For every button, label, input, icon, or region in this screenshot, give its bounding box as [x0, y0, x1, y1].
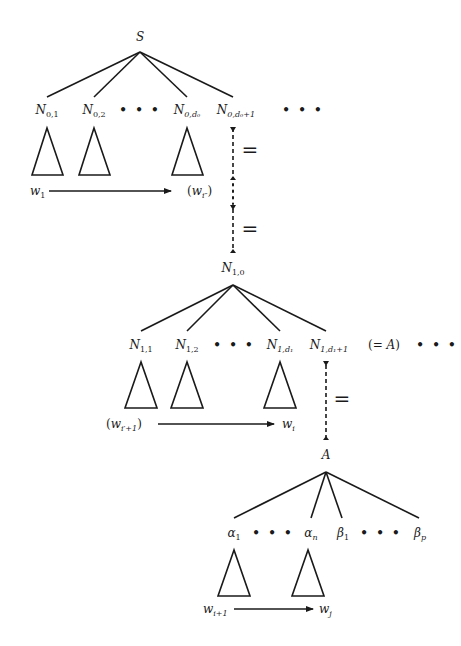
subtree-triangle: [79, 128, 110, 175]
node-S: S: [136, 30, 144, 44]
equals-sign: =: [242, 138, 259, 162]
ellipsis: • • •: [282, 103, 323, 117]
node-N1d1: N1,d₁: [266, 338, 293, 354]
node-betap: βp: [413, 526, 426, 542]
edge: [140, 52, 187, 97]
arrowhead-icon: [230, 127, 236, 132]
ellipsis: • • •: [416, 338, 457, 352]
level2-tree: A α1 • • • αn β1 • • • βp wi+1 wj: [203, 448, 426, 618]
subtree-triangle: [172, 128, 203, 175]
edge: [141, 285, 233, 331]
node-alpha1: α1: [227, 526, 240, 542]
tree-diagram: S N0,1 N0,2 • • • N0,d₀ N0,d₀+1 • • • w1…: [0, 0, 461, 646]
annotation-equals-A: (= A): [368, 338, 400, 352]
equals-sign: =: [334, 387, 351, 411]
equals-sign: =: [242, 217, 259, 241]
identity-connector-1: = =: [230, 127, 258, 253]
identity-connector-2: =: [323, 361, 350, 440]
node-alphan: αn: [304, 526, 317, 542]
edge: [47, 52, 140, 97]
ellipsis: • • •: [213, 338, 254, 352]
node-N11: N1,1: [128, 338, 152, 354]
subtree-triangle: [292, 550, 324, 596]
yield-start-wi1plus1: (wi′+1): [106, 417, 142, 433]
yield-end-wi2: (wi″): [187, 184, 212, 200]
node-N0d0plus1: N0,d₀+1: [216, 103, 255, 119]
edge: [187, 285, 233, 331]
arrowhead-icon: [230, 176, 236, 180]
yield-end-wi: wi: [282, 417, 295, 433]
node-N1d1plus1: N1,d₁+1: [309, 338, 348, 354]
ellipsis: • • •: [119, 103, 160, 117]
edge: [94, 52, 140, 97]
edge: [233, 285, 280, 331]
node-N12: N1,2: [174, 338, 198, 354]
ellipsis: • • •: [360, 526, 401, 540]
arrowhead-icon: [230, 249, 236, 253]
node-N02: N0,2: [81, 103, 105, 119]
node-N0d0: N0,d₀: [173, 103, 201, 119]
level0-tree: S N0,1 N0,2 • • • N0,d₀ N0,d₀+1 • • • w1…: [30, 30, 324, 200]
subtree-triangle: [171, 362, 203, 408]
edge: [234, 472, 326, 518]
edge: [140, 52, 233, 97]
yield-end-wj: wj: [319, 602, 332, 618]
node-beta1: β1: [336, 526, 349, 542]
node-N01: N0,1: [34, 103, 58, 119]
level1-tree: N1,0 N1,1 N1,2 • • • N1,d₁ N1,d₁+1 (= A)…: [106, 261, 458, 433]
ellipsis: • • •: [252, 526, 293, 540]
subtree-triangle: [125, 362, 157, 408]
edge: [233, 285, 326, 331]
subtree-triangle: [218, 550, 250, 596]
arrowhead-icon: [323, 436, 329, 440]
yield-start-wiplus1: wi+1: [203, 602, 228, 618]
subtree-triangle: [264, 362, 296, 408]
yield-start-w1: w1: [30, 184, 45, 200]
subtree-triangle: [32, 128, 63, 175]
node-A: A: [321, 448, 331, 462]
node-N10: N1,0: [220, 261, 244, 277]
